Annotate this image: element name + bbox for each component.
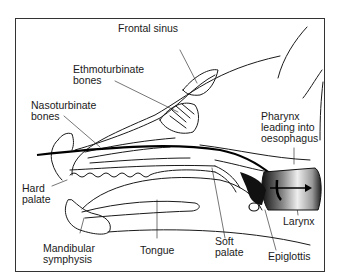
label-ethmoturbinate: Ethmoturbinate bones [73,64,144,86]
ear-outline [278,27,307,78]
lower-jaw-outline [82,177,262,210]
neck-outline [303,70,322,98]
mandible-bottom [108,230,310,245]
mandibular-symphysis-shape [65,200,110,234]
label-pharynx: Pharynx leading into oesophagus [261,111,318,144]
label-frontal-sinus: Frontal sinus [118,23,178,34]
leader-epiglottis [265,210,276,250]
label-mandibular-symphysis: Mandibular symphysis [43,243,95,265]
hyoid-bone [249,203,259,211]
soft-palate-shape [215,166,240,188]
label-hard-palate: Hard palate [22,183,51,205]
hard-palate-line [70,170,215,177]
frontal-sinus-shape [183,70,218,96]
snout-outline [51,140,62,180]
epiglottis-shape [240,172,266,205]
leader-frontal-sinus [180,50,197,83]
leader-hard-palate [52,180,67,186]
label-larynx: Larynx [283,216,315,227]
label-soft-palate: Soft palate [215,236,244,258]
label-tongue: Tongue [140,245,174,256]
pharynx-wall [200,145,310,160]
ethmoturbinate-shape [160,103,199,133]
larynx-tube [262,168,321,210]
label-nasoturbinate: Nasoturbinate bones [31,100,96,122]
neck-outline-2 [320,82,323,140]
leader-soft-palate [212,168,225,238]
label-epiglottis: Epiglottis [268,251,311,262]
